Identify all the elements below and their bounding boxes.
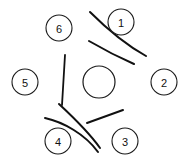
diagram-canvas: 123456: [0, 0, 187, 163]
numbered-circle-label-6: 6: [56, 23, 62, 35]
line-left-vertical-stroke: [62, 55, 65, 105]
center-circle-group: [83, 66, 115, 98]
line-lower-right-stroke: [87, 110, 123, 123]
center-circle-empty[interactable]: [83, 66, 115, 98]
numbered-circle-label-3: 3: [122, 136, 128, 148]
numbered-circle-label-2: 2: [161, 77, 167, 89]
numbered-circle-label-4: 4: [55, 136, 61, 148]
numbered-circle-label-5: 5: [22, 77, 28, 89]
numbered-circle-label-1: 1: [118, 17, 124, 29]
diagram-svg: 123456: [0, 0, 187, 163]
